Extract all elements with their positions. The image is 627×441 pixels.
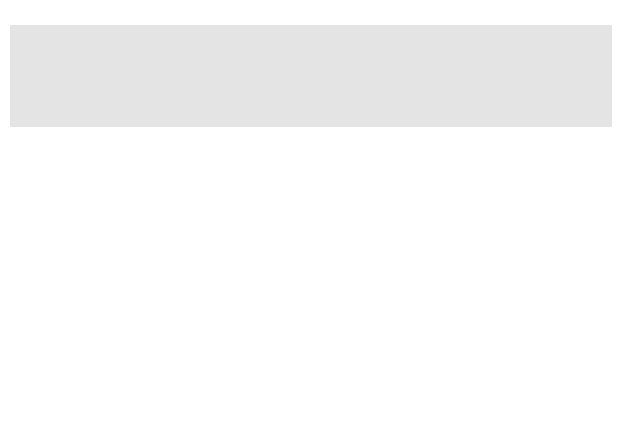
missouri-compromise-map [0,0,627,441]
